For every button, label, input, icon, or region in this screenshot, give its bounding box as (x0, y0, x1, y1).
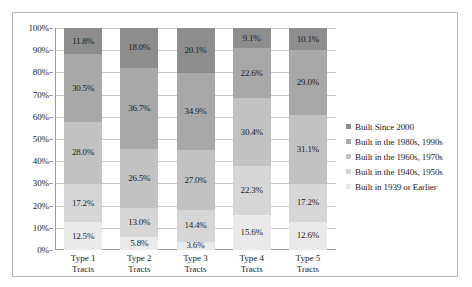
y-axis-tick-mark (49, 50, 53, 51)
bar-segment-value-label: 20.1% (184, 46, 206, 55)
chart-frame: 0%10%20%30%40%50%60%70%80%90%100% 11.8%3… (12, 12, 458, 277)
y-axis-tick-mark (49, 161, 53, 162)
y-axis: 0%10%20%30%40%50%60%70%80%90%100% (13, 28, 53, 250)
bar-segment-value-label: 30.5% (72, 84, 94, 93)
stacked-bar[interactable]: 10.1%29.0%31.1%17.2%12.6% (289, 28, 327, 250)
bar-segment[interactable]: 18.0% (120, 28, 158, 68)
bar-segment[interactable]: 15.6% (233, 215, 271, 250)
y-axis-tick-mark (49, 28, 53, 29)
x-axis-tick-label-line: Type 4 (239, 253, 264, 263)
bar-column[interactable]: 18.0%36.7%26.5%13.0%5.8% (111, 28, 167, 250)
bar-column[interactable]: 9.1%22.6%30.4%22.3%15.6% (224, 28, 280, 250)
bar-segment[interactable]: 11.8% (64, 28, 102, 54)
stacked-bar[interactable]: 11.8%30.5%28.0%17.2%12.5% (64, 28, 102, 250)
y-axis-tick-label: 50% (33, 134, 49, 144)
bar-segment[interactable]: 29.0% (289, 50, 327, 114)
x-axis-tick-label: Type 2Tracts (111, 253, 167, 275)
bar-segment[interactable]: 20.1% (177, 28, 215, 73)
legend-item-label: Built in the 1980s, 1990s (355, 137, 443, 147)
bar-segment[interactable]: 3.6% (177, 242, 215, 250)
y-axis-tick-label: 20% (33, 201, 49, 211)
bar-segment-value-label: 27.0% (184, 176, 206, 185)
bar-segment[interactable]: 14.4% (177, 210, 215, 242)
legend-item-label: Built in 1939 or Earlier (355, 182, 437, 192)
legend-item[interactable]: Built Since 2000 (346, 119, 443, 134)
bar-segment[interactable]: 17.2% (289, 184, 327, 222)
bar-column[interactable]: 20.1%34.9%27.0%14.4%3.6% (167, 28, 223, 250)
y-axis-tick-mark (49, 250, 53, 251)
bar-segment-value-label: 17.2% (72, 199, 94, 208)
bar-segment[interactable]: 13.0% (120, 208, 158, 237)
bar-column[interactable]: 11.8%30.5%28.0%17.2%12.5% (55, 28, 111, 250)
x-axis: Type 1TractsType 2TractsType 3TractsType… (55, 253, 336, 275)
bar-segment[interactable]: 17.2% (64, 184, 102, 222)
y-axis-tick-mark (49, 139, 53, 140)
bar-segment-value-label: 13.0% (128, 218, 150, 227)
x-axis-tick-label-line: Type 3 (183, 253, 208, 263)
x-axis-tick-label-line: Tracts (280, 264, 336, 275)
legend-swatch-icon (346, 124, 351, 129)
y-axis-tick-mark (49, 95, 53, 96)
bar-segment[interactable]: 27.0% (177, 150, 215, 210)
y-axis-tick-label: 70% (33, 90, 49, 100)
x-axis-tick-label: Type 3Tracts (167, 253, 223, 275)
y-axis-tick-label: 40% (33, 156, 49, 166)
legend-item-label: Built in the 1960s, 1970s (355, 152, 443, 162)
legend-item[interactable]: Built in the 1940s, 1950s (346, 164, 443, 179)
bar-segment[interactable]: 30.4% (233, 98, 271, 165)
x-axis-tick-label-line: Type 2 (127, 253, 152, 263)
y-axis-tick-label: 0% (37, 245, 49, 255)
bar-segment[interactable]: 36.7% (120, 68, 158, 149)
bar-segment-value-label: 30.4% (241, 128, 263, 137)
bar-segment[interactable]: 9.1% (233, 28, 271, 48)
bar-segment[interactable]: 31.1% (289, 115, 327, 184)
legend-item-label: Built Since 2000 (355, 122, 414, 132)
stacked-bar[interactable]: 18.0%36.7%26.5%13.0%5.8% (120, 28, 158, 250)
bar-segment-value-label: 12.5% (72, 232, 94, 241)
x-axis-tick-label: Type 5Tracts (280, 253, 336, 275)
bar-segment-value-label: 18.0% (128, 43, 150, 52)
bar-segment[interactable]: 34.9% (177, 73, 215, 150)
bar-segment-value-label: 10.1% (297, 35, 319, 44)
y-axis-tick-mark (49, 117, 53, 118)
stacked-bar[interactable]: 9.1%22.6%30.4%22.3%15.6% (233, 28, 271, 250)
stacked-bar[interactable]: 20.1%34.9%27.0%14.4%3.6% (177, 28, 215, 250)
x-axis-tick-label-line: Tracts (55, 264, 111, 275)
bar-segment[interactable]: 5.8% (120, 237, 158, 250)
x-axis-tick-label-line: Type 1 (71, 253, 96, 263)
bar-series-group: 11.8%30.5%28.0%17.2%12.5%18.0%36.7%26.5%… (55, 28, 336, 250)
bar-segment[interactable]: 12.6% (289, 222, 327, 250)
legend-swatch-icon (346, 184, 351, 189)
y-axis-tick-mark (49, 72, 53, 73)
bar-segment[interactable]: 22.6% (233, 48, 271, 98)
x-axis-tick-label-line: Tracts (224, 264, 280, 275)
bar-segment-value-label: 11.8% (72, 37, 94, 46)
bar-column[interactable]: 10.1%29.0%31.1%17.2%12.6% (280, 28, 336, 250)
bar-segment-value-label: 17.2% (297, 198, 319, 207)
y-axis-tick-label: 80% (33, 67, 49, 77)
y-axis-tick-mark (49, 183, 53, 184)
x-axis-tick-label: Type 1Tracts (55, 253, 111, 275)
bar-segment[interactable]: 30.5% (64, 54, 102, 122)
legend-item[interactable]: Built in the 1960s, 1970s (346, 149, 443, 164)
legend-item[interactable]: Built in 1939 or Earlier (346, 179, 443, 194)
bar-segment[interactable]: 12.5% (64, 222, 102, 250)
legend-swatch-icon (346, 139, 351, 144)
y-axis-tick-label: 100% (28, 23, 49, 33)
x-axis-tick-label-line: Tracts (111, 264, 167, 275)
bar-segment[interactable]: 26.5% (120, 149, 158, 208)
y-axis-tick-label: 90% (33, 45, 49, 55)
bar-segment[interactable]: 28.0% (64, 122, 102, 184)
x-axis-tick-label: Type 4Tracts (224, 253, 280, 275)
y-axis-tick-label: 60% (33, 112, 49, 122)
bar-segment[interactable]: 22.3% (233, 166, 271, 216)
bar-segment-value-label: 22.6% (241, 69, 263, 78)
legend-swatch-icon (346, 154, 351, 159)
legend-item[interactable]: Built in the 1980s, 1990s (346, 134, 443, 149)
bar-segment-value-label: 3.6% (187, 241, 205, 250)
y-axis-tick-mark (49, 228, 53, 229)
bar-segment[interactable]: 10.1% (289, 28, 327, 50)
chart-legend: Built Since 2000Built in the 1980s, 1990… (346, 119, 443, 194)
plot-area: 11.8%30.5%28.0%17.2%12.5%18.0%36.7%26.5%… (55, 28, 336, 250)
y-axis-tick-label: 10% (33, 223, 49, 233)
